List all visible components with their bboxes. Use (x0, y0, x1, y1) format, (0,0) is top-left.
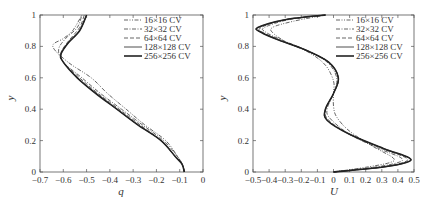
x-tick-label: 0.4 (392, 175, 404, 185)
x-tick-label: −0.3 (125, 175, 142, 185)
left-y-axis-label: y (4, 95, 16, 101)
legend-entry: 256×256 CV (356, 51, 403, 61)
left-legend: 16×16 CV32×32 CV64×64 CV128×128 CV256×25… (124, 15, 191, 61)
x-tick-label: 0 (331, 175, 336, 185)
x-tick-label: 0.5 (408, 175, 420, 185)
x-tick-label: −0.1 (172, 175, 188, 185)
x-tick-label: −0.3 (277, 175, 294, 185)
y-tick-label: 0 (32, 167, 37, 177)
y-tick-label: 0.4 (238, 104, 250, 114)
right-plot-u-profile: −0.5−0.4−0.3−0.2−0.100.10.20.30.40.5 00.… (216, 10, 420, 197)
x-tick-label: −0.4 (102, 175, 119, 185)
right-legend: 16×16 CV32×32 CV64×64 CV128×128 CV256×25… (336, 15, 403, 61)
right-x-axis-label: U (330, 185, 339, 197)
left-plot-q-profile: −0.7−0.6−0.5−0.4−0.3−0.2−0.10 00.20.40.6… (4, 10, 206, 197)
right-x-ticks: −0.5−0.4−0.3−0.2−0.100.10.20.30.40.5 (245, 15, 420, 185)
y-tick-label: 0.8 (238, 41, 250, 51)
left-x-axis-label: q (118, 185, 124, 197)
x-tick-label: −0.5 (78, 175, 95, 185)
y-tick-label: 0.4 (25, 104, 37, 114)
y-tick-label: 1 (245, 10, 250, 20)
y-tick-label: 0.2 (25, 136, 36, 146)
y-tick-label: 0.8 (25, 41, 37, 51)
x-tick-label: −0.6 (55, 175, 72, 185)
x-tick-label: 0.3 (376, 175, 388, 185)
x-tick-label: −0.2 (148, 175, 164, 185)
y-tick-label: 1 (32, 10, 37, 20)
y-tick-label: 0.6 (238, 73, 250, 83)
x-tick-label: 0.1 (344, 175, 355, 185)
y-tick-label: 0 (245, 167, 250, 177)
figure: −0.7−0.6−0.5−0.4−0.3−0.2−0.10 00.20.40.6… (0, 0, 426, 207)
right-y-axis-label: y (216, 95, 228, 101)
x-tick-label: −0.2 (293, 175, 309, 185)
y-tick-label: 0.6 (25, 73, 37, 83)
x-tick-label: 0 (201, 175, 206, 185)
y-tick-label: 0.2 (238, 136, 249, 146)
legend-entry: 256×256 CV (144, 51, 191, 61)
x-tick-label: −0.1 (309, 175, 325, 185)
x-tick-label: −0.4 (261, 175, 278, 185)
x-tick-label: 0.2 (360, 175, 371, 185)
